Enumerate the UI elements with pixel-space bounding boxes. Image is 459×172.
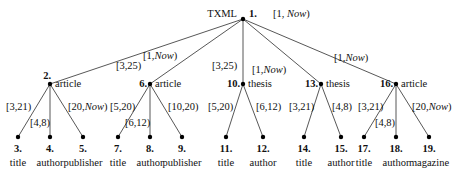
edge-label-16-19: [20,Now) xyxy=(412,101,452,113)
edge-label-1-10: [3,25) xyxy=(212,60,238,72)
leaf-dot-9 xyxy=(180,135,184,139)
leaf-id-7: 7. xyxy=(114,143,122,154)
edge-label-13-15: [4,8) xyxy=(332,101,353,113)
leaf-id-15: 15. xyxy=(334,143,348,154)
edge-label-1-13: [1,Now) xyxy=(252,64,287,76)
leaf-tag-19: magazine xyxy=(409,157,450,168)
node-tag-10: thesis xyxy=(248,78,272,89)
leaf-dot-11 xyxy=(224,135,228,139)
leaf-dot-17 xyxy=(362,135,366,139)
node-dot-2 xyxy=(48,82,52,86)
leaf-id-4: 4. xyxy=(46,143,54,154)
root-node-dot xyxy=(241,17,245,21)
edge-label-6-7: [5,20) xyxy=(110,101,136,113)
node-tag-2: article xyxy=(55,78,82,89)
leaf-dot-4 xyxy=(48,135,52,139)
root-interval-label: [1, Now) xyxy=(273,8,310,20)
leaf-id-19: 19. xyxy=(422,143,436,154)
leaf-tag-5: publisher xyxy=(63,157,103,168)
edge-label-1-16: [1,Now) xyxy=(334,52,369,64)
edge-label-10-12: [6,12) xyxy=(256,101,282,113)
leaf-dot-12 xyxy=(261,135,265,139)
edge-label-6-8: [6,12) xyxy=(125,117,151,129)
leaf-id-9: 9. xyxy=(178,143,186,154)
edge-label-2-4: [4,8) xyxy=(30,117,51,129)
node-dot-13 xyxy=(319,82,323,86)
node-id-2: 2. xyxy=(43,70,51,81)
txml-tree-diagram: TXML1.[1, Now)[1,Now)[3,25)[3,25)[1,Now)… xyxy=(0,0,459,172)
node-dot-16 xyxy=(394,82,398,86)
node-id-13: 13. xyxy=(305,78,319,89)
edge-label-16-17: [3,21) xyxy=(358,101,384,113)
leaf-tag-7: title xyxy=(110,157,127,168)
node-tag-6: article xyxy=(155,78,182,89)
node-tag-16: article xyxy=(401,78,428,89)
leaf-id-5: 5. xyxy=(79,143,87,154)
leaf-id-3: 3. xyxy=(14,143,22,154)
edge-label-10-11: [5,20) xyxy=(208,101,234,113)
leaf-dot-14 xyxy=(302,135,306,139)
leaf-id-18: 18. xyxy=(389,143,403,154)
leaf-id-14: 14. xyxy=(297,143,311,154)
leaf-tag-18: author xyxy=(383,157,410,168)
edge-label-1-2: [1,Now) xyxy=(143,50,178,62)
edge-label-6-9: [10,20) xyxy=(168,101,199,113)
leaf-tag-8: author xyxy=(137,157,164,168)
node-dot-10 xyxy=(241,82,245,86)
leaf-tag-4: author xyxy=(37,157,64,168)
leaf-tag-3: title xyxy=(10,157,27,168)
leaf-dot-3 xyxy=(16,135,20,139)
leaf-tag-17: title xyxy=(356,157,373,168)
leaf-dot-8 xyxy=(148,135,152,139)
leaf-tag-11: title xyxy=(218,157,235,168)
node-dot-6 xyxy=(148,82,152,86)
edge-label-16-18: [4,8) xyxy=(375,117,396,129)
root-label: TXML xyxy=(207,8,237,19)
leaf-tag-14: title xyxy=(296,157,313,168)
edge-label-2-3: [3,21) xyxy=(6,101,32,113)
leaf-dot-19 xyxy=(427,135,431,139)
edge-label-2-5: [20,Now) xyxy=(68,101,108,113)
leaf-tag-12: author xyxy=(250,157,277,168)
leaf-id-12: 12. xyxy=(256,143,270,154)
node-id-16: 16. xyxy=(380,78,394,89)
leaf-id-17: 17. xyxy=(357,143,371,154)
leaf-tag-9: publisher xyxy=(162,157,202,168)
leaf-id-11: 11. xyxy=(220,143,233,154)
leaf-dot-18 xyxy=(394,135,398,139)
root-id: 1. xyxy=(249,8,257,19)
leaf-dot-15 xyxy=(339,135,343,139)
leaf-dot-5 xyxy=(81,135,85,139)
edge-label-13-14: [3,21) xyxy=(289,101,315,113)
node-id-10: 10. xyxy=(227,78,241,89)
edge-label-1-6: [3,25) xyxy=(116,60,142,72)
node-tag-13: thesis xyxy=(326,78,350,89)
leaf-id-8: 8. xyxy=(146,143,154,154)
leaf-tag-15: author xyxy=(328,157,355,168)
node-id-6: 6. xyxy=(139,78,147,89)
leaf-dot-7 xyxy=(116,135,120,139)
